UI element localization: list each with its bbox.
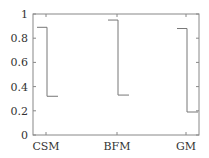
data-series (37, 20, 198, 112)
x-tick-label: GM (176, 140, 196, 153)
series-gm-line (177, 29, 198, 112)
x-tick-label: CSM (32, 140, 59, 153)
plot-area-frame (33, 14, 199, 135)
chart: 00.20.40.60.81 CSMBFMGM (0, 0, 209, 158)
y-tick-label: 0.2 (11, 105, 29, 118)
y-tick-label: 0.8 (11, 32, 29, 45)
x-axis-ticks: CSMBFMGM (32, 14, 196, 153)
y-axis-ticks: 00.20.40.60.81 (11, 8, 200, 142)
y-tick-label: 1 (21, 8, 28, 21)
series-bfm-line (108, 20, 129, 95)
y-tick-label: 0.4 (11, 81, 29, 94)
y-tick-label: 0.6 (11, 56, 29, 69)
y-tick-label: 0 (21, 129, 28, 142)
series-csm-line (37, 27, 58, 96)
x-tick-label: BFM (104, 140, 131, 153)
